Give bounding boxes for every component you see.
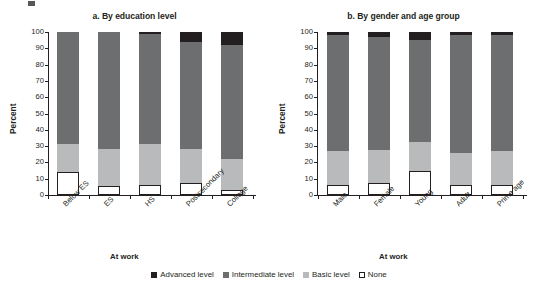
bar-segment-advanced — [491, 32, 513, 35]
bar-female[interactable] — [368, 32, 390, 196]
bar-segment-intermediate — [139, 34, 161, 145]
y-tick-label: 50 — [287, 110, 313, 118]
legend-swatch-icon — [303, 272, 309, 278]
legend-swatch-icon — [223, 272, 229, 278]
x-tick-mark — [48, 196, 49, 199]
bar-segment-intermediate — [98, 32, 120, 149]
bar-postsecondary[interactable] — [180, 32, 202, 196]
legend-item-intermediate[interactable]: Intermediate level — [223, 270, 294, 279]
legend-label: Basic level — [312, 270, 350, 279]
x-tick-mark — [130, 196, 131, 199]
bar-segment-none — [98, 186, 120, 195]
y-tick-label: 70 — [18, 77, 44, 85]
bar-segment-advanced — [180, 32, 202, 42]
panel-a: a. By education level Percent 0102030405… — [0, 0, 269, 250]
bar-segment-basic — [180, 149, 202, 182]
bar-segment-intermediate — [450, 35, 472, 152]
y-tick-label: 60 — [287, 93, 313, 101]
y-axis-line — [317, 32, 318, 196]
x-tick-mark — [318, 196, 319, 199]
bar-segment-basic — [139, 144, 161, 185]
x-tick-mark — [441, 196, 442, 199]
bar-segment-advanced — [368, 32, 390, 37]
x-tick-label-hs: HS — [143, 195, 157, 209]
y-tick-label: 20 — [18, 158, 44, 166]
bar-male[interactable] — [327, 32, 349, 196]
x-tick-mark — [212, 196, 213, 199]
x-tick-mark — [253, 196, 254, 199]
y-tick-label: 0 — [287, 191, 313, 199]
bar-segment-intermediate — [409, 40, 431, 142]
y-tick-label: 90 — [287, 44, 313, 52]
panel-b-x-axis-title: At work — [379, 252, 408, 261]
bar-segment-basic — [368, 150, 390, 183]
legend-item-none[interactable]: None — [359, 270, 387, 279]
bar-segment-intermediate — [327, 35, 349, 151]
y-tick-label: 40 — [287, 126, 313, 134]
y-tick-label: 90 — [18, 44, 44, 52]
y-tick-label: 20 — [287, 158, 313, 166]
bar-segment-advanced — [327, 32, 349, 35]
figure-root: a. By education level Percent 0102030405… — [0, 0, 538, 290]
bar-segment-intermediate — [221, 45, 243, 159]
x-tick-mark — [482, 196, 483, 199]
x-tick-mark — [89, 196, 90, 199]
bar-segment-basic — [57, 144, 79, 172]
panel-b-title: b. By gender and age group — [269, 11, 538, 21]
legend-item-basic[interactable]: Basic level — [303, 270, 350, 279]
bar-segment-advanced — [450, 32, 472, 35]
y-tick-label: 80 — [18, 61, 44, 69]
y-tick-label: 70 — [287, 77, 313, 85]
y-axis-line — [48, 32, 49, 196]
bar-segment-advanced — [221, 32, 243, 45]
panel-a-title: a. By education level — [0, 11, 269, 21]
y-tick-label: 30 — [18, 142, 44, 150]
x-tick-mark — [523, 196, 524, 199]
bar-segment-intermediate — [180, 42, 202, 150]
bar-segment-basic — [327, 151, 349, 185]
bar-prime-age[interactable] — [491, 32, 513, 196]
y-tick-label: 30 — [287, 142, 313, 150]
y-tick-label: 10 — [287, 175, 313, 183]
legend-swatch-icon — [359, 272, 365, 278]
bar-es[interactable] — [98, 32, 120, 196]
chart-legend: Advanced levelIntermediate levelBasic le… — [0, 270, 538, 279]
bar-segment-intermediate — [57, 32, 79, 144]
bar-segment-intermediate — [491, 35, 513, 151]
bar-young[interactable] — [409, 32, 431, 196]
legend-swatch-icon — [151, 272, 157, 278]
bar-segment-advanced — [139, 32, 161, 34]
legend-label: Intermediate level — [232, 270, 294, 279]
x-tick-mark — [400, 196, 401, 199]
bar-adult[interactable] — [450, 32, 472, 196]
x-tick-mark — [171, 196, 172, 199]
legend-label: None — [368, 270, 387, 279]
legend-item-advanced[interactable]: Advanced level — [151, 270, 214, 279]
bar-segment-basic — [98, 149, 120, 186]
bar-segment-basic — [409, 142, 431, 171]
x-tick-mark — [359, 196, 360, 199]
x-tick-label-es: ES — [102, 195, 116, 209]
y-tick-label: 60 — [18, 93, 44, 101]
bar-segment-basic — [450, 153, 472, 186]
bar-segment-advanced — [409, 32, 431, 40]
y-tick-label: 100 — [287, 28, 313, 36]
y-tick-label: 10 — [18, 175, 44, 183]
bar-segment-basic — [491, 151, 513, 185]
bar-below-es[interactable] — [57, 32, 79, 196]
bar-segment-intermediate — [368, 37, 390, 150]
panel-a-x-axis-title: At work — [110, 252, 139, 261]
legend-label: Advanced level — [160, 270, 214, 279]
panel-b-y-axis-label: Percent — [277, 103, 287, 133]
y-tick-label: 40 — [18, 126, 44, 134]
y-tick-label: 0 — [18, 191, 44, 199]
bar-hs[interactable] — [139, 32, 161, 196]
y-tick-label: 100 — [18, 28, 44, 36]
panel-b: b. By gender and age group Percent 01020… — [269, 0, 538, 250]
y-tick-label: 50 — [18, 110, 44, 118]
panel-a-y-axis-label: Percent — [8, 103, 18, 133]
y-tick-label: 80 — [287, 61, 313, 69]
